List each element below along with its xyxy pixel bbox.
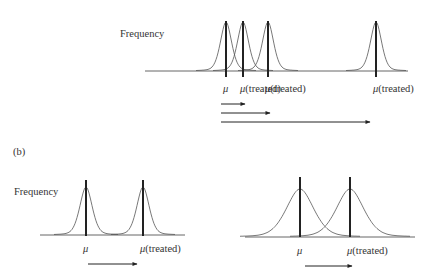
mean-markers <box>226 21 376 77</box>
panel-b-narrow-distributions: μμ(treated) <box>40 180 185 264</box>
distribution-curves <box>196 22 406 71</box>
mean-labels: μμ(treated) <box>82 243 181 255</box>
mean-labels: μμ(treated) <box>296 245 388 257</box>
distribution-curves <box>240 189 410 236</box>
distribution-curves <box>54 187 175 235</box>
mean-label-control: μ <box>222 83 228 94</box>
mean-label-treated-large: μ(treated) <box>372 83 414 95</box>
panel-b-wide-distributions: μμ(treated) <box>240 177 415 266</box>
mean-label-control: μ <box>296 245 302 256</box>
y-axis-label: Frequency <box>120 28 165 39</box>
mean-label-treated-medium: μ(treated) <box>264 83 306 95</box>
mean-markers <box>300 177 350 237</box>
mean-label-treated: μ(treated) <box>346 245 388 257</box>
mean-markers <box>86 180 143 236</box>
panel-tag: (b) <box>13 146 26 158</box>
mean-labels: μμ(treated)μ(treated)μ(treated) <box>222 83 414 95</box>
shift-arrows <box>221 104 370 122</box>
panel-a: Frequency μμ(treated)μ(treated)μ(treated… <box>120 21 414 122</box>
shift-distribution-diagram: Frequency μμ(treated)μ(treated)μ(treated… <box>0 0 431 278</box>
mean-label-control: μ <box>82 243 88 254</box>
y-axis-label: Frequency <box>14 186 59 197</box>
mean-label-treated: μ(treated) <box>139 243 181 255</box>
panel-b: (b) Frequency μμ(treated) μμ(treated) <box>13 146 415 266</box>
